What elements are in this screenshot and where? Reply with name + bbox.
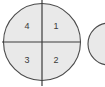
diagram-svg: 4 1 3 2 <box>0 0 105 87</box>
quadrant-label-lower-right: 2 <box>53 55 58 65</box>
quadrant-label-upper-left: 4 <box>24 21 29 31</box>
diagram-canvas: 4 1 3 2 <box>0 0 105 87</box>
quadrant-label-upper-right: 1 <box>53 21 58 31</box>
quadrant-label-lower-left: 3 <box>24 55 29 65</box>
